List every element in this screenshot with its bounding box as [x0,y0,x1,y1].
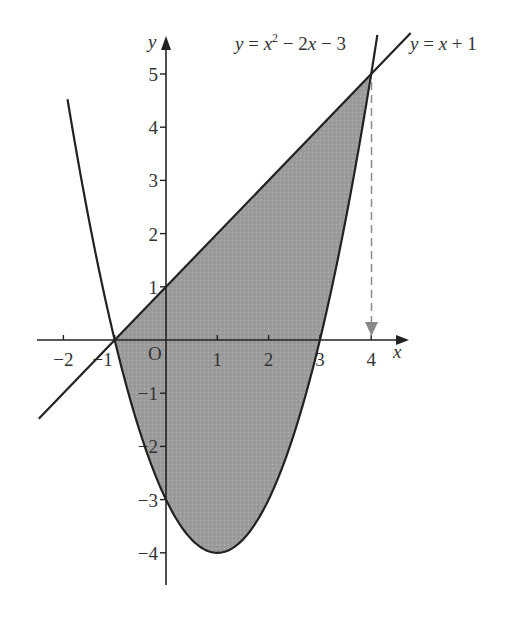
eq2-plus1: + 1 [447,33,477,54]
chart: −2−11234 54321−1−2−3−4 x y O y = x2 − 2x… [0,0,518,628]
line-equation-label: y = x + 1 [408,33,477,54]
x-tick-label: 2 [264,349,274,370]
x-tick-label: 1 [213,349,223,370]
y-tick-label: −1 [138,383,158,404]
down-arrow-icon [365,322,378,336]
x-tick-label: 4 [366,349,376,370]
eq2-y: y [408,33,419,54]
y-tick-label: 2 [149,224,159,245]
origin-label: O [148,343,162,364]
eq1-minus3: − 3 [316,33,346,54]
parabola-equation-label: y = x2 − 2x − 3 [233,31,346,54]
y-tick-label: −4 [138,543,159,564]
y-axis-label: y [146,31,157,52]
eq1-y: y [233,33,244,54]
y-tick-label: 4 [149,117,159,138]
y-tick-label: 5 [149,64,159,85]
y-tick-label: 3 [149,170,159,191]
eq1-eq: = [243,33,263,54]
y-axis-arrow-icon [161,36,171,50]
y-tick-label: −3 [138,490,158,511]
eq2-eq: = [418,33,438,54]
shaded-region [115,74,372,553]
x-axis-label: x [392,341,402,362]
eq1-minus2: − 2 [278,33,308,54]
y-tick-label: 1 [149,277,159,298]
x-tick-label: −2 [53,349,73,370]
